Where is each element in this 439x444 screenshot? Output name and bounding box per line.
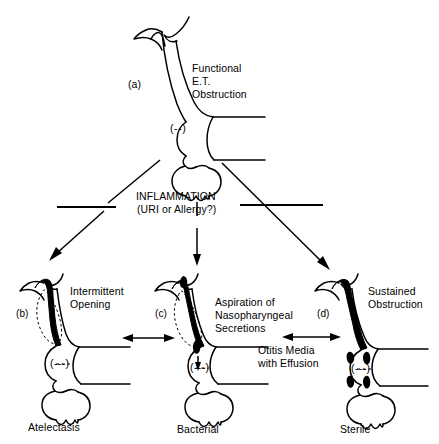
panel-d-pressure-label: (---): [351, 362, 370, 375]
panel-a-caption-line3: Obstruction: [192, 88, 247, 101]
panel-b-mastoid-right: [78, 392, 90, 420]
panel-b-caption-line1: Intermittent: [70, 285, 124, 298]
panel-c-caption-line2: Nasopharyngeal: [215, 309, 293, 322]
effusion-label-line2: with Effusion: [258, 357, 319, 370]
panel-b-letter: (b): [16, 308, 29, 321]
double-arrow-c-to-d: [282, 333, 341, 341]
double-arrow-cd-head-left: [282, 333, 293, 341]
panel-d-caption-line1: Sustained: [368, 285, 416, 298]
panel-d-mastoid-neck-right: [371, 394, 383, 396]
panel-d-outcome: Sterile: [340, 423, 370, 436]
panel-c-mastoid-right: [221, 394, 233, 422]
panel-a-letter: (a): [128, 78, 141, 91]
panel-c-tympanic-membrane: [210, 347, 218, 384]
panel-c-letter: (c): [155, 308, 167, 321]
right-branch-connector: [222, 163, 330, 270]
panel-c-mastoid-left: [185, 393, 199, 422]
panel-c-pressure-label: (---): [190, 361, 209, 374]
panel-d-tube-lumen-obstructed: [332, 279, 367, 350]
panel-b-caption-line2: Opening: [70, 298, 110, 311]
panel-d-tympanic-membrane: [372, 349, 380, 386]
panel-d-effusion-blob-4: [363, 376, 370, 389]
panel-c-outcome: Bacterial: [177, 423, 219, 436]
panel-b-mastoid-neck-right: [66, 390, 78, 392]
diagram-canvas: (a) Functional E.T. Obstruction (--) INF…: [0, 0, 439, 444]
left-diagonal-lower: [57, 211, 104, 253]
panel-c-mastoid-neck-right: [209, 392, 221, 394]
panel-c-tube-lumen: [172, 280, 204, 348]
inflammation-line1: INFLAMMATION: [136, 190, 216, 203]
panel-d-mastoid-left: [347, 395, 361, 424]
panel-c-caption-line1: Aspiration of: [215, 296, 275, 309]
panel-b-pressure-label: (---): [50, 357, 69, 370]
mastoid-neck-right: [196, 166, 209, 168]
double-arrow-cd-head-right: [330, 333, 341, 341]
arrowhead-down-center: [193, 254, 201, 266]
panel-a-anatomy: [134, 17, 265, 201]
double-arrow-bc-head-left: [122, 334, 133, 342]
arrowhead-left-branch: [49, 247, 62, 261]
double-arrow-b-to-c: [122, 334, 175, 342]
panel-d-caption-line2: Obstruction: [368, 298, 423, 311]
panel-a-caption-line1: Functional: [192, 62, 241, 75]
panel-b-outcome: Atelectasis: [28, 421, 80, 434]
panel-d-mastoid-right: [383, 396, 395, 424]
panel-a-pressure-label: (--): [170, 122, 186, 135]
effusion-label-line1: Otitis Media: [258, 344, 315, 357]
panel-c-caption-line3: Secretions: [215, 322, 266, 335]
panel-b-left-flap-icon: [20, 282, 44, 301]
panel-b-tympanic-membrane: [73, 347, 81, 384]
inflammation-line2: (URI or Allergy?): [137, 203, 216, 216]
tympanic-membrane: [207, 117, 214, 160]
right-diagonal: [222, 163, 322, 262]
tube-top-curl-icon: [164, 17, 189, 42]
panel-d-letter: (d): [317, 308, 330, 321]
double-arrow-bc-head-right: [164, 334, 175, 342]
panel-a-caption-line2: E.T.: [192, 75, 211, 88]
panel-b-mastoid-left: [42, 391, 56, 420]
